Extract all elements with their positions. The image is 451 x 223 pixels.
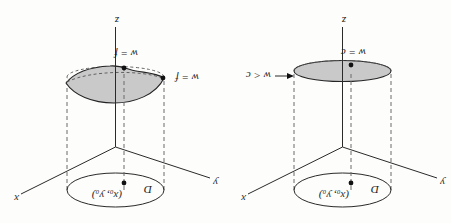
constant-surface-panel: D (x₀, y₀) y x z w < c w = c (225, 0, 451, 223)
domain-point-label: (x₀, y₀) (91, 189, 122, 202)
x-axis-label: x (241, 193, 247, 205)
domain-point-marker (349, 181, 354, 186)
z-axis-label: z (341, 15, 347, 27)
y-axis-label: y (213, 177, 219, 189)
surface-point-marker (122, 66, 127, 71)
function-surface-panel: D (x₀, y₀) y x z w = f w = f (0, 0, 226, 223)
sheet-edge-point-marker (161, 76, 166, 81)
edge-condition-label: w < c (246, 70, 271, 82)
right-diagram-svg: D (x₀, y₀) y x z w = f w = f (0, 0, 226, 223)
domain-point-marker (122, 181, 127, 186)
x-axis-label: x (14, 193, 20, 205)
edge-condition-label: w = f (174, 72, 199, 84)
surface-equation-label: w = f (113, 48, 138, 60)
y-axis-label: y (440, 177, 446, 189)
surface-equation-label: w = c (341, 47, 366, 59)
surface-point-marker (349, 63, 354, 68)
left-diagram-svg: D (x₀, y₀) y x z w < c w = c (225, 0, 451, 223)
domain-point-label: (x₀, y₀) (318, 189, 349, 202)
z-axis-label: z (114, 15, 120, 27)
domain-label: D (371, 184, 380, 196)
edge-callout-arrowhead (287, 73, 294, 79)
figure-sheet: D (x₀, y₀) y x z w < c w = c (0, 0, 451, 223)
domain-label: D (144, 184, 153, 196)
